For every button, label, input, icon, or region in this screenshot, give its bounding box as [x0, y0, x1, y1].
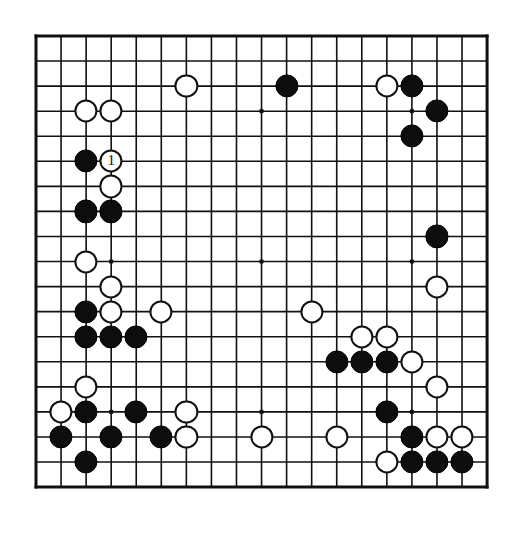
stone-black[interactable] — [100, 325, 123, 348]
stone-white[interactable] — [400, 350, 423, 373]
stone-white[interactable] — [100, 100, 123, 123]
go-board[interactable]: 1 — [26, 26, 497, 503]
stone-black[interactable] — [75, 325, 98, 348]
stone-black[interactable] — [100, 200, 123, 223]
stone-white[interactable] — [175, 425, 198, 448]
stone-white[interactable] — [100, 300, 123, 323]
stone-white[interactable] — [175, 400, 198, 423]
stone-black[interactable] — [325, 350, 348, 373]
stone-white[interactable] — [325, 425, 348, 448]
stone-white[interactable] — [375, 450, 398, 473]
stone-white[interactable]: 1 — [100, 150, 123, 173]
stone-white[interactable] — [450, 425, 473, 448]
stone-black[interactable] — [75, 200, 98, 223]
stone-white[interactable] — [425, 425, 448, 448]
stone-black[interactable] — [400, 75, 423, 98]
stone-white[interactable] — [375, 325, 398, 348]
stone-black[interactable] — [150, 425, 173, 448]
stone-black[interactable] — [425, 100, 448, 123]
move-number-label: 1 — [107, 154, 115, 169]
stone-white[interactable] — [75, 375, 98, 398]
stone-white[interactable] — [300, 300, 323, 323]
stone-black[interactable] — [425, 450, 448, 473]
stone-black[interactable] — [375, 350, 398, 373]
stone-layer[interactable]: 1 — [26, 26, 497, 503]
stone-white[interactable] — [49, 400, 72, 423]
stone-black[interactable] — [125, 325, 148, 348]
stone-black[interactable] — [75, 400, 98, 423]
stone-black[interactable] — [75, 150, 98, 173]
stone-white[interactable] — [75, 100, 98, 123]
stone-black[interactable] — [375, 400, 398, 423]
stone-black[interactable] — [75, 300, 98, 323]
stone-black[interactable] — [400, 125, 423, 148]
stone-white[interactable] — [250, 425, 273, 448]
stone-white[interactable] — [425, 375, 448, 398]
stone-black[interactable] — [450, 450, 473, 473]
stone-black[interactable] — [425, 225, 448, 248]
stone-white[interactable] — [350, 325, 373, 348]
stone-black[interactable] — [400, 425, 423, 448]
stone-black[interactable] — [75, 450, 98, 473]
stone-black[interactable] — [49, 425, 72, 448]
stone-white[interactable] — [150, 300, 173, 323]
stone-white[interactable] — [425, 275, 448, 298]
stone-black[interactable] — [275, 75, 298, 98]
stone-black[interactable] — [125, 400, 148, 423]
stone-white[interactable] — [100, 175, 123, 198]
stone-black[interactable] — [400, 450, 423, 473]
stone-black[interactable] — [100, 425, 123, 448]
stone-black[interactable] — [350, 350, 373, 373]
diagram-page: 1 — [0, 0, 524, 540]
stone-white[interactable] — [100, 275, 123, 298]
stone-white[interactable] — [75, 250, 98, 273]
stone-white[interactable] — [375, 75, 398, 98]
stone-white[interactable] — [175, 75, 198, 98]
